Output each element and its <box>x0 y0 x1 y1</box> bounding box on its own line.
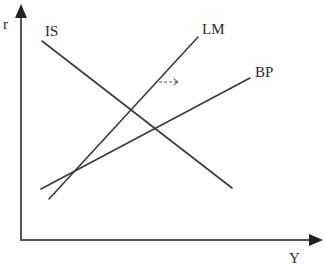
y-axis <box>15 4 27 241</box>
is-lm-bp-diagram: r Y IS LM BP <box>0 0 325 266</box>
x-axis-arrow-icon <box>309 234 323 246</box>
x-axis <box>20 234 323 246</box>
y-axis-label: r <box>3 16 8 32</box>
is-curve-line <box>42 41 232 188</box>
bp-curve-label: BP <box>255 64 273 80</box>
is-curve-label: IS <box>45 23 58 39</box>
lm-shift-arrow <box>159 79 178 85</box>
is-curve: IS <box>42 23 232 188</box>
lm-curve: LM <box>49 21 225 199</box>
y-axis-arrow-icon <box>15 4 27 18</box>
x-axis-label: Y <box>289 250 300 266</box>
lm-curve-label: LM <box>202 21 225 37</box>
bp-curve: BP <box>41 64 273 189</box>
